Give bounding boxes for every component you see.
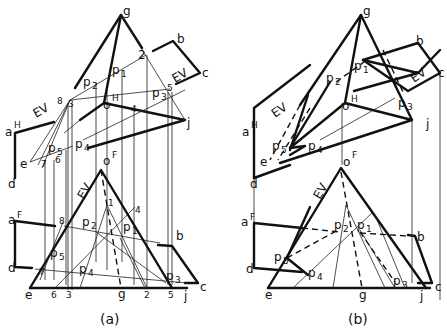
point-label: 2 (343, 224, 349, 234)
point-label: e (20, 157, 27, 171)
point-label: p (48, 141, 56, 155)
point-label: 3 (68, 99, 74, 109)
point-label: 1 (366, 224, 372, 234)
point-label: 4 (317, 145, 323, 155)
point-label: 7 (39, 267, 45, 277)
point-label: EV (269, 99, 291, 120)
point-label: 3 (175, 275, 181, 285)
label-g: g (123, 4, 131, 18)
caption-b: (b) (348, 311, 368, 327)
point-label: p (326, 71, 334, 85)
point-label: p (82, 215, 90, 229)
point-label: o (342, 99, 349, 113)
point-label: 3 (161, 92, 167, 102)
point-label: 8 (59, 216, 65, 226)
point-label: 2 (91, 221, 97, 231)
point-label: 4 (135, 205, 141, 215)
point-label: p (123, 220, 131, 234)
point-label: 3 (66, 290, 72, 300)
point-label: 5 (59, 252, 65, 262)
point-label: 4 (84, 143, 90, 153)
point-label: F (112, 150, 117, 160)
point-label: c (435, 280, 442, 294)
point-label: a (5, 125, 12, 139)
point-label: o (343, 155, 350, 169)
point-label: e (260, 155, 267, 169)
label-b: b (177, 32, 185, 46)
point-label: F (17, 210, 22, 220)
point-label: d (246, 262, 254, 276)
point-label: a (241, 215, 248, 229)
point-label: j (183, 289, 187, 303)
point-label: p (75, 137, 83, 151)
point-label: 1 (108, 198, 114, 208)
point-label: g (363, 4, 371, 18)
point-label: j (425, 117, 429, 131)
point-label: p (334, 218, 342, 232)
point-label: p (50, 246, 58, 260)
point-label: 5 (168, 290, 174, 300)
point-label: 6 (55, 155, 61, 165)
point-label: d (8, 261, 16, 275)
point-label: 2 (335, 77, 341, 87)
point-label: p (274, 250, 282, 264)
point-label: 5 (281, 145, 287, 155)
point-label: 8 (57, 96, 63, 106)
point-label: b (416, 34, 424, 48)
point-label: H (112, 93, 119, 103)
caption-a: (a) (100, 311, 120, 327)
point-label: e (265, 288, 272, 302)
point-label: 5 (283, 256, 289, 266)
point-label: 2 (92, 81, 98, 91)
point-label: 6 (51, 290, 57, 300)
point-label: j (419, 289, 423, 303)
point-label: d (250, 177, 258, 191)
point-label: b (417, 230, 425, 244)
point-label: d (8, 177, 16, 191)
point-label: p (354, 59, 362, 73)
point-label: H (14, 120, 21, 130)
point-label: g (118, 287, 126, 301)
point-label: F (250, 212, 255, 222)
point-label: p (393, 274, 401, 288)
point-label: e (25, 288, 32, 302)
point-label: F (352, 150, 357, 160)
panel-b: g b c p 1 p 2 p 3 o H j a H EV EV p 5 p … (241, 4, 445, 327)
point-label: c (200, 280, 207, 294)
point-label: H (351, 94, 358, 104)
point-label: p (79, 262, 87, 276)
point-label: p (398, 96, 406, 110)
point-label: 3 (402, 280, 408, 290)
point-label: g (359, 288, 367, 302)
point-label: EV (408, 64, 430, 85)
point-label: 4 (88, 268, 94, 278)
point-label: 5 (167, 83, 173, 93)
point-label: 2 (144, 290, 150, 300)
point-label: p (308, 266, 316, 280)
label-p1: p (112, 63, 120, 77)
point-label: o (103, 154, 110, 168)
point-label: b (176, 229, 184, 243)
label-c: c (202, 66, 209, 80)
point-label: 1 (132, 226, 138, 236)
point-label: p (83, 75, 91, 89)
labels-b: g b c p 1 p 2 p 3 o H j a H EV EV p 5 p … (241, 4, 445, 327)
panel-a: g b c 2 p 1 p 2 p 3 5 8 3 o H 4 j a H EV… (5, 4, 209, 327)
descriptive-geometry-figure: g b c 2 p 1 p 2 p 3 5 8 3 o H 4 j a H EV… (0, 0, 447, 332)
point-label: p (166, 269, 174, 283)
point-label: a (8, 213, 15, 227)
point-label: 4 (317, 272, 323, 282)
point-label: 4 (131, 104, 137, 114)
point-label: p (357, 218, 365, 232)
point-label: H (251, 120, 258, 130)
point-label: EV (310, 180, 330, 201)
point-label: 1 (363, 65, 369, 75)
label-2: 2 (138, 48, 146, 62)
point-label: p (272, 139, 280, 153)
point-label: c (438, 66, 445, 80)
point-label: EV (31, 100, 52, 120)
point-label: a (242, 125, 249, 139)
point-label: p (152, 86, 160, 100)
point-label: 7 (41, 159, 47, 169)
point-label: p (308, 139, 316, 153)
